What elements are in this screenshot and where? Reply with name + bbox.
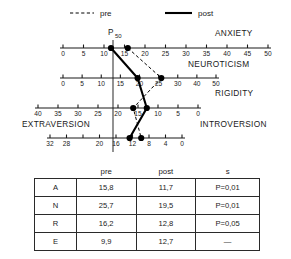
tick-label-A-50: 50 [264, 50, 272, 57]
axis-title-N: NEUROTICISM [188, 59, 249, 69]
column-header-scale [35, 166, 77, 179]
data-point-pre-R [130, 105, 136, 111]
cell-N-post: 19,5 [136, 197, 196, 215]
cell-N-s: P=0,01 [196, 197, 260, 215]
series-line-post [111, 48, 147, 138]
p50-label: P [108, 28, 114, 37]
data-point-post-E [127, 135, 133, 141]
data-point-post-R [144, 105, 150, 111]
tick-label-A-45: 45 [244, 50, 252, 57]
tick-label-N-15: 15 [117, 80, 125, 87]
series-layer [108, 45, 164, 141]
chart-legend: pre post [70, 9, 214, 18]
data-point-pre-A [125, 45, 131, 51]
tick-label-A-30: 30 [182, 50, 190, 57]
cell-E-post: 12,7 [136, 233, 196, 251]
tick-label-A-25: 25 [162, 50, 170, 57]
data-point-pre-N [158, 75, 164, 81]
axis-title-E: INTROVERSION [200, 119, 267, 129]
cell-R-scale: R [35, 215, 77, 233]
tick-label-A-20: 20 [141, 50, 149, 57]
tick-label-R-15: 15 [134, 110, 142, 117]
column-header-s: s [196, 166, 260, 179]
tick-label-N-10: 10 [98, 80, 106, 87]
tick-label-R-0: 0 [196, 110, 200, 117]
tick-label-E-4: 4 [164, 140, 168, 147]
cell-R-s: P=0,05 [196, 215, 260, 233]
tick-label-R-30: 30 [74, 110, 82, 117]
tick-label-R-35: 35 [54, 110, 62, 117]
cell-A-post: 11,7 [136, 179, 196, 197]
tick-label-E-0: 0 [180, 140, 184, 147]
cell-N-scale: N [35, 197, 77, 215]
tick-label-R-20: 20 [114, 110, 122, 117]
cell-R-post: 12,8 [136, 215, 196, 233]
tick-label-R-10: 10 [154, 110, 162, 117]
cell-A-scale: A [35, 179, 77, 197]
data-point-pre-E [138, 135, 144, 141]
p50-sublabel: 50 [115, 33, 122, 39]
tick-label-R-25: 25 [94, 110, 102, 117]
data-point-post-A [108, 45, 114, 51]
table-header-row: preposts [35, 166, 260, 179]
axis-left-title-E: EXTRAVERSION [22, 119, 90, 129]
tick-label-A-5: 5 [82, 50, 86, 57]
series-line-pre [128, 48, 162, 138]
cell-A-pre: 15,8 [76, 179, 136, 197]
tick-label-N-0: 0 [61, 80, 65, 87]
axes-layer: 05101520253035404550ANXIETY0510152025304… [22, 28, 272, 147]
legend-pre-label: pre [100, 9, 112, 18]
cell-E-pre: 9,9 [76, 233, 136, 251]
cell-E-s: — [196, 233, 260, 251]
column-header-post: post [136, 166, 196, 179]
axis-title-A: ANXIETY [215, 28, 253, 38]
tick-label-A-35: 35 [203, 50, 211, 57]
tick-label-E-16: 16 [112, 140, 120, 147]
tick-label-E-28: 28 [63, 140, 71, 147]
tick-label-E-32: 32 [46, 140, 54, 147]
table-row: R16,212,8P=0,05 [35, 215, 260, 233]
axis-title-R: RIGIDITY [215, 88, 254, 98]
cell-A-s: P=0,01 [196, 179, 260, 197]
tick-label-E-8: 8 [147, 140, 151, 147]
tick-label-N-50: 50 [212, 80, 220, 87]
tick-label-A-0: 0 [61, 50, 65, 57]
tick-label-A-40: 40 [223, 50, 231, 57]
column-header-pre: pre [76, 166, 136, 179]
table-row: A15,811,7P=0,01 [35, 179, 260, 197]
tick-label-A-10: 10 [100, 50, 108, 57]
cell-R-pre: 16,2 [76, 215, 136, 233]
tick-label-N-5: 5 [80, 80, 84, 87]
data-point-post-N [135, 75, 141, 81]
tick-label-N-30: 30 [174, 80, 182, 87]
legend-post-label: post [198, 9, 214, 18]
tick-label-N-40: 40 [193, 80, 201, 87]
cell-E-scale: E [35, 233, 77, 251]
table-row: N25,719,5P=0,01 [35, 197, 260, 215]
table-row: E9,912,7— [35, 233, 260, 251]
results-table: prepostsA15,811,7P=0,01N25,719,5P=0,01R1… [34, 166, 260, 251]
tick-label-E-20: 20 [96, 140, 104, 147]
tick-label-R-40: 40 [34, 110, 42, 117]
figure-root: pre post P 50 05101520253035404550ANXIET… [0, 0, 291, 259]
cell-N-pre: 25,7 [76, 197, 136, 215]
tick-label-R-5: 5 [176, 110, 180, 117]
